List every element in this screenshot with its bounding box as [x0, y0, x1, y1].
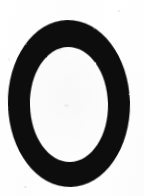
zero-glyph	[0, 0, 144, 196]
glyph-layer	[0, 0, 144, 196]
scanned-character-image	[0, 0, 144, 196]
zero-glyph-path	[6, 19, 131, 189]
